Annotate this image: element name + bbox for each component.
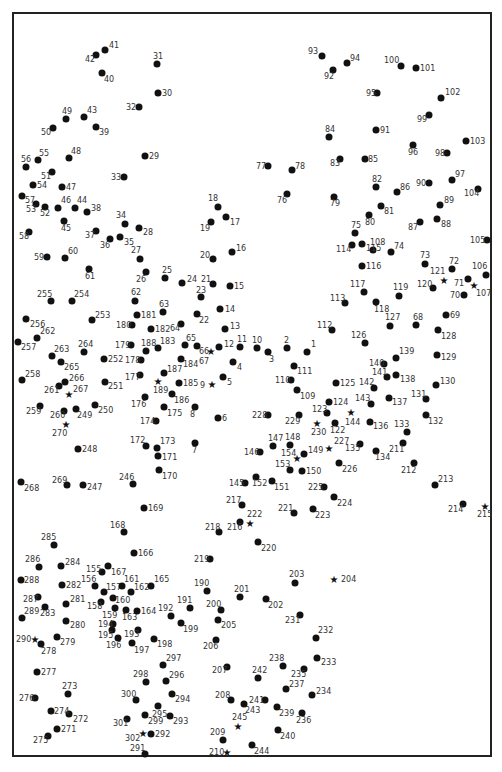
dot-label: 114 bbox=[336, 246, 351, 254]
dot-marker bbox=[222, 326, 229, 333]
dot-marker bbox=[63, 116, 70, 123]
dot-marker bbox=[143, 679, 150, 686]
dot-label: 19 bbox=[200, 225, 210, 233]
dot-marker bbox=[413, 65, 420, 72]
dot-label: 147 bbox=[268, 435, 283, 443]
dot-label: 182 bbox=[155, 326, 170, 334]
dot-label: 268 bbox=[24, 485, 39, 493]
dot-marker bbox=[359, 241, 366, 248]
dot-label: 18 bbox=[208, 195, 218, 203]
dot-label: 235 bbox=[291, 671, 306, 679]
dot-label: 76 bbox=[277, 197, 287, 205]
dot-marker bbox=[220, 737, 227, 744]
dot-label: 50 bbox=[41, 129, 51, 137]
dot-label: 27 bbox=[131, 247, 141, 255]
dot-marker bbox=[362, 340, 369, 347]
dot-label: 9 bbox=[200, 382, 205, 390]
dot-label: 77 bbox=[256, 163, 266, 171]
dot-label: 51 bbox=[41, 173, 51, 181]
dot-label: 257 bbox=[21, 344, 36, 352]
dot-label: 276 bbox=[19, 695, 34, 703]
dot-label: 141 bbox=[372, 369, 387, 377]
dot-marker bbox=[51, 542, 58, 549]
dot-marker bbox=[216, 344, 223, 351]
dot-label: 32 bbox=[126, 104, 136, 112]
dot-label: 85 bbox=[368, 156, 378, 164]
dot-label: 272 bbox=[73, 716, 88, 724]
dot-label: 80 bbox=[365, 219, 375, 227]
dot-label: 226 bbox=[342, 466, 357, 474]
star-icon: ★ bbox=[347, 408, 356, 418]
dot-label: 5 bbox=[227, 379, 232, 387]
dot-label: 248 bbox=[82, 446, 97, 454]
dot-label: 278 bbox=[41, 648, 56, 656]
dot-marker bbox=[187, 605, 194, 612]
dot-label: 44 bbox=[77, 197, 87, 205]
dot-marker bbox=[148, 731, 155, 738]
dot-label: 131 bbox=[411, 391, 426, 399]
dot-label: 7 bbox=[192, 447, 197, 455]
dot-label: 283 bbox=[40, 610, 55, 618]
dot-label: 296 bbox=[169, 672, 184, 680]
dot-label: 218 bbox=[205, 524, 220, 532]
dot-label: 43 bbox=[87, 107, 97, 115]
dot-label: 37 bbox=[85, 232, 95, 240]
dot-label: 188 bbox=[141, 340, 156, 348]
dot-label: 23 bbox=[196, 287, 206, 295]
dot-marker bbox=[121, 174, 128, 181]
dot-label: 69 bbox=[450, 312, 460, 320]
dot-marker bbox=[237, 344, 244, 351]
dot-label: 224 bbox=[337, 500, 352, 508]
dot-marker bbox=[54, 726, 61, 733]
dot-label: 55 bbox=[39, 150, 49, 158]
dot-marker bbox=[333, 380, 340, 387]
dot-label: 217 bbox=[226, 497, 241, 505]
dot-label: 109 bbox=[300, 393, 315, 401]
dot-label: 227 bbox=[334, 438, 349, 446]
dot-label: 274 bbox=[54, 708, 69, 716]
dot-label: 203 bbox=[289, 571, 304, 579]
dot-label: 14 bbox=[225, 306, 235, 314]
dot-marker bbox=[44, 254, 51, 261]
dot-label: 36 bbox=[100, 242, 110, 250]
dot-label: 61 bbox=[85, 273, 95, 281]
dot-label: 120 bbox=[417, 281, 432, 289]
dot-label: 281 bbox=[70, 596, 85, 604]
dot-marker bbox=[101, 356, 108, 363]
dot-label: 134 bbox=[375, 454, 390, 462]
dot-marker bbox=[292, 580, 299, 587]
dot-label: 47 bbox=[66, 184, 76, 192]
dot-label: 247 bbox=[87, 484, 102, 492]
dot-label: 173 bbox=[160, 438, 175, 446]
dot-label: 178 bbox=[125, 357, 140, 365]
dot-label: 10 bbox=[252, 337, 262, 345]
dot-marker bbox=[65, 691, 72, 698]
dot-marker bbox=[168, 613, 175, 620]
dot-label: 148 bbox=[285, 434, 300, 442]
dot-marker bbox=[227, 283, 234, 290]
dot-label: 210 bbox=[209, 749, 224, 757]
dot-marker bbox=[59, 184, 66, 191]
dot-label: 93 bbox=[308, 48, 318, 56]
dot-label: 209 bbox=[210, 729, 225, 737]
dot-label: 122 bbox=[330, 427, 345, 435]
dot-label: 140 bbox=[369, 360, 384, 368]
dot-label: 297 bbox=[166, 655, 181, 663]
dot-label: 223 bbox=[315, 512, 330, 520]
dot-label: 92 bbox=[324, 73, 334, 81]
dot-marker bbox=[284, 345, 291, 352]
dot-label: 38 bbox=[91, 205, 101, 213]
dot-label: 15 bbox=[234, 283, 244, 291]
dot-label: 62 bbox=[131, 289, 141, 297]
dot-label: 31 bbox=[153, 53, 163, 61]
dot-label: 262 bbox=[40, 328, 55, 336]
dot-label: 232 bbox=[318, 627, 333, 635]
star-icon: ★ bbox=[246, 519, 255, 529]
dot-label: 110 bbox=[275, 377, 290, 385]
dot-label: 292 bbox=[155, 731, 170, 739]
dot-label: 264 bbox=[78, 341, 93, 349]
dot-label: 301 bbox=[113, 720, 128, 728]
dot-label: 45 bbox=[61, 225, 71, 233]
dot-marker bbox=[75, 446, 82, 453]
dot-label: 291 bbox=[130, 745, 145, 753]
